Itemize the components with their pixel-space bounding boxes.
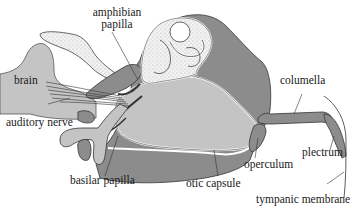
- inner-ear-diagram: [0, 0, 352, 212]
- label-amphibian-papilla: amphibian papilla: [84, 6, 150, 30]
- label-auditory-nerve: auditory nerve: [6, 116, 73, 128]
- label-amphibian-papilla-line2: papilla: [84, 18, 150, 30]
- dark-knob: [78, 139, 91, 160]
- label-operculum: operculum: [244, 158, 293, 170]
- label-tympanic-membrane: tympanic membrane: [256, 193, 350, 205]
- label-amphibian-papilla-line1: amphibian: [84, 6, 150, 18]
- columella-shape: [258, 112, 334, 124]
- label-plectrum: plectrum: [302, 146, 343, 158]
- label-brain: brain: [14, 74, 38, 86]
- label-basilar-papilla: basilar papilla: [70, 174, 135, 186]
- label-otic-capsule: otic capsule: [186, 177, 241, 189]
- label-columella: columella: [280, 74, 325, 86]
